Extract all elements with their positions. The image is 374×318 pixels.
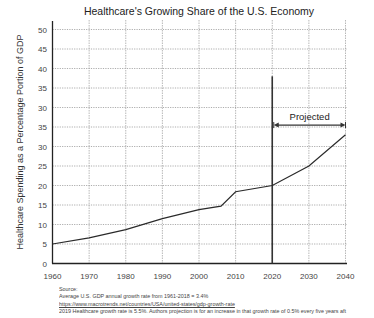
projected-label: Projected [290,111,330,122]
x-tick-label: 1980 [117,272,135,281]
x-tick-label: 1970 [80,272,98,281]
line-chart: Healthcare's Growing Share of the U.S. E… [0,0,374,285]
y-tick-label: 25 [38,162,47,171]
x-axis-tick-labels: 196019701980199020002010202020302040 [44,272,355,281]
y-tick-label: 5 [43,240,48,249]
y-tick-label: 0 [43,260,48,269]
y-axis-label: Healthcare Spending as a Percentage Port… [15,34,25,249]
x-tick-label: 2010 [227,272,245,281]
y-tick-label: 20 [38,182,47,191]
source-footnote: Source: Average U.S. GDP annual growth r… [59,286,374,316]
gdp-growth-note: Average U.S. GDP annual growth rate from… [59,293,374,300]
projection-note: 2019 Healthcare growth rate is 5.5%. Aut… [59,308,374,315]
x-tick-label: 2000 [190,272,208,281]
y-tick-label: 30 [38,104,47,113]
y-tick-label: 50 [38,26,47,35]
y-tick-label: 35 [38,84,47,93]
chart-title: Healthcare's Growing Share of the U.S. E… [84,5,315,17]
y-tick-label: 30 [38,143,47,152]
x-tick-label: 2040 [337,272,355,281]
y-tick-label: 10 [38,221,47,230]
y-tick-label: 35 [38,123,47,132]
y-tick-label: 15 [38,201,47,210]
y-tick-label: 45 [38,45,47,54]
x-tick-label: 2030 [300,272,318,281]
horizontal-gridlines [53,30,348,245]
x-tick-label: 1990 [153,272,171,281]
y-tick-label: 40 [38,65,47,74]
y-axis-tick-labels: 504540353035302520151050 [38,26,47,269]
x-tick-label: 1960 [44,272,62,281]
x-tick-label: 2020 [263,272,281,281]
source-label: Source: [59,286,374,293]
vertical-gridlines [89,20,345,264]
source-link[interactable]: https://www.macrotrends.net/countries/US… [59,301,235,307]
